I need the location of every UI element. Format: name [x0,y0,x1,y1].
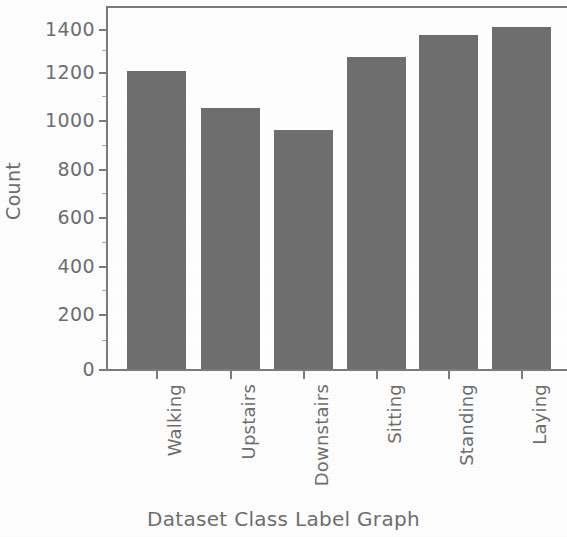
x-tick-mark-downstairs [303,371,305,379]
y-tick-mark-200 [99,314,106,316]
x-tick-mark-standing [448,371,450,379]
bar-chart-figure: 1400 1200 1000 800 600 400 200 0 Walking… [0,0,567,537]
y-tick-mark-1000 [99,120,106,122]
x-tick-mark-walking [156,371,158,379]
bar-upstairs[interactable] [201,108,260,369]
y-tick-mark-1400 [99,29,106,31]
x-tick-label-upstairs: Upstairs [240,384,258,459]
x-tick-mark-laying [521,371,523,379]
bar-downstairs[interactable] [274,130,333,370]
bar-sitting[interactable] [347,57,406,369]
x-tick-label-walking: Walking [166,384,184,456]
y-tick-label-1000: 1000 [45,111,95,130]
bar-laying[interactable] [492,27,551,369]
x-tick-label-sitting: Sitting [386,384,404,444]
y-tick-mark-0 [99,369,106,371]
bar-walking[interactable] [127,71,186,369]
x-tick-label-downstairs: Downstairs [313,384,331,486]
y-tick-label-600: 600 [58,208,95,227]
y-tick-mark-800 [99,169,106,171]
y-tick-mark-600 [99,217,106,219]
x-axis-title: Dataset Class Label Graph [0,507,567,531]
x-tick-label-standing: Standing [458,384,476,466]
y-tick-mark-1200 [99,72,106,74]
y-tick-mark-400 [99,266,106,268]
y-tick-label-1200: 1200 [45,63,95,82]
y-tick-label-800: 800 [58,160,95,179]
x-tick-mark-upstairs [230,371,232,379]
y-tick-label-0: 0 [83,360,96,379]
y-tick-label-400: 400 [58,257,95,276]
y-tick-label-200: 200 [58,305,95,324]
x-tick-label-laying: Laying [531,384,549,445]
bar-standing[interactable] [419,35,478,369]
y-tick-label-1400: 1400 [45,20,95,39]
y-axis-title: Count [4,162,23,220]
x-axis-spine [106,369,567,371]
x-tick-mark-sitting [376,371,378,379]
